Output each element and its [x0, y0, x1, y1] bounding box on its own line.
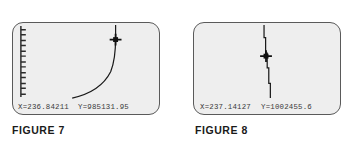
readout-y-value-8: Y=1002455.6: [251, 103, 312, 111]
calculator-screen-7: X=236.84211 Y=985131.95: [12, 22, 160, 115]
calculator-screen-8: X=237.14127 Y=1002455.6: [193, 22, 341, 115]
coordinate-readout-7: X=236.84211 Y=985131.95: [13, 100, 159, 114]
readout-y-value-7: Y=985131.95: [69, 103, 129, 111]
curve-path-8: [264, 25, 270, 98]
trace-cursor-7: [110, 34, 122, 46]
figure-caption-7: FIGURE 7: [12, 124, 172, 136]
coordinate-readout-8: X=237.14127 Y=1002455.6: [194, 100, 340, 114]
plot-area-7: [13, 23, 159, 100]
readout-x-value-7: X=236.84211: [13, 103, 69, 111]
graph-svg-8: [194, 23, 340, 100]
plot-area-8: [194, 23, 340, 100]
curve-path-7: [72, 25, 115, 98]
trace-cursor-8: [260, 50, 272, 62]
figure-block-7: X=236.84211 Y=985131.95 FIGURE 7: [12, 22, 172, 136]
readout-x-value-8: X=237.14127: [194, 103, 251, 111]
figure-block-8: X=237.14127 Y=1002455.6 FIGURE 8: [193, 22, 353, 136]
graph-svg-7: [13, 23, 159, 100]
figure-caption-8: FIGURE 8: [195, 124, 353, 136]
figures-row: X=236.84211 Y=985131.95 FIGURE 7: [0, 0, 362, 156]
